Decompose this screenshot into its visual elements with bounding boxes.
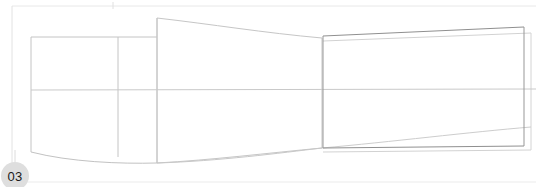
ghost-bottom-edge [323,150,531,152]
right-dark-rectangle [323,27,524,148]
horizontal-centerline [31,89,536,90]
hull-curve-left [31,152,157,163]
drawing-canvas: 03 [0,0,536,187]
mid-taper-outline [157,18,322,163]
marker-badge[interactable]: 03 [1,162,29,187]
right-ghost-outline [323,33,531,152]
dark-rect-bottom-edge [323,146,524,148]
lower-hull-curve [31,127,531,163]
marker-badge-label: 03 [8,170,23,183]
mid-bottom-curve [157,148,322,163]
hull-curve-right [322,127,531,148]
sheet-frame [12,2,536,182]
mid-top-curve [157,18,322,38]
left-section-box [31,18,157,163]
technical-line-drawing [0,0,536,187]
